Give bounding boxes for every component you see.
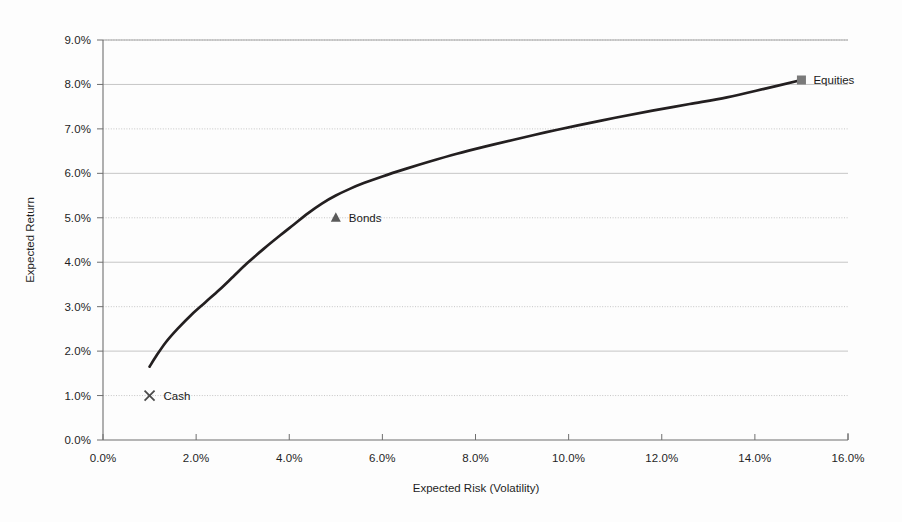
x-axis-tick-labels: 0.0%2.0%4.0%6.0%8.0%10.0%12.0%14.0%16.0% (90, 452, 865, 464)
marker-bonds-triangle-icon (331, 212, 341, 222)
y-axis-tick-label: 2.0% (64, 345, 91, 357)
efficient-frontier-line (150, 80, 802, 367)
y-axis-tick-label: 9.0% (64, 34, 91, 46)
x-axis-tick-label: 4.0% (276, 452, 303, 464)
x-axis-tick-label: 6.0% (369, 452, 396, 464)
x-axis-tick-label: 10.0% (552, 452, 585, 464)
data-point-labels: CashBondsEquities (164, 74, 855, 402)
y-axis-tick-label: 1.0% (64, 390, 91, 402)
chart-canvas: 0.0%2.0%4.0%6.0%8.0%10.0%12.0%14.0%16.0%… (0, 0, 902, 522)
data-point-markers (145, 76, 806, 401)
gridlines-group (103, 40, 848, 396)
x-axis-tick-label: 8.0% (462, 452, 489, 464)
x-axis-tick-label: 0.0% (90, 452, 117, 464)
y-axis-tick-label: 5.0% (64, 212, 91, 224)
x-axis-tick-label: 12.0% (645, 452, 678, 464)
data-point-label-bonds: Bonds (349, 212, 382, 224)
y-axis-tick-label: 0.0% (64, 434, 91, 446)
data-point-label-equities: Equities (813, 74, 854, 86)
x-axis-tick-label: 2.0% (183, 452, 210, 464)
y-axis-tick-label: 8.0% (64, 78, 91, 90)
x-axis-title: Expected Risk (Volatility) (413, 482, 540, 494)
y-axis-tick-label: 7.0% (64, 123, 91, 135)
x-axis-tick-label: 16.0% (831, 452, 864, 464)
y-axis-tick-label: 6.0% (64, 167, 91, 179)
marker-equities-square-icon (797, 76, 806, 85)
y-axis-title: Expected Return (24, 197, 36, 283)
efficient-frontier-chart: 0.0%2.0%4.0%6.0%8.0%10.0%12.0%14.0%16.0%… (0, 0, 902, 522)
frontier-curve-group (150, 80, 802, 367)
axis-lines (103, 40, 848, 440)
y-axis-tick-labels: 0.0%1.0%2.0%3.0%4.0%5.0%6.0%7.0%8.0%9.0% (64, 34, 91, 446)
x-axis-tick-label: 14.0% (738, 452, 771, 464)
y-axis-tick-label: 3.0% (64, 301, 91, 313)
y-axis-tick-label: 4.0% (64, 256, 91, 268)
y-axis-tick-marks (97, 40, 103, 440)
x-axis-tick-marks (103, 434, 848, 440)
data-point-label-cash: Cash (164, 390, 191, 402)
